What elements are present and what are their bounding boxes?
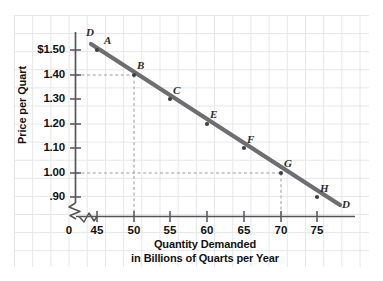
x-tick-label-55: 55 [158, 224, 182, 236]
point-label-F: F [247, 133, 254, 145]
x-tick-label-60: 60 [195, 224, 219, 236]
y-axis-title: Price per Quart [12, 60, 30, 150]
data-point-G [279, 171, 283, 175]
point-label-G: G [284, 157, 292, 169]
point-label-C: C [173, 84, 180, 96]
data-point-B [132, 73, 136, 77]
point-label-B: B [137, 59, 144, 71]
demand-curve-figure: $1.50 1.40 1.30 1.20 1.10 1.00 .90 0 45 … [0, 0, 383, 281]
x-tick-label-75: 75 [305, 224, 329, 236]
data-point-C [168, 97, 172, 101]
x-tick-label-50: 50 [122, 224, 146, 236]
x-axis-title-line2: in Billions of Quarts per Year [60, 252, 350, 266]
point-label-A: A [104, 34, 111, 46]
x-axis-title-line1: Quantity Demanded [60, 238, 350, 252]
x-tick-label-70: 70 [269, 224, 293, 236]
data-point-F [242, 146, 246, 150]
x-tick-label-0: 0 [57, 224, 81, 236]
x-axis-break-zigzag [79, 213, 97, 222]
point-label-E: E [210, 108, 217, 120]
x-tick-label-65: 65 [232, 224, 256, 236]
demand-curve-line [91, 44, 340, 205]
y-tick-label-150: $1.50 [16, 43, 65, 55]
data-point-E [205, 122, 209, 126]
x-axis-title: Quantity Demanded in Billions of Quarts … [60, 238, 350, 265]
data-point-A [95, 48, 99, 52]
point-label-H: H [320, 182, 329, 194]
curve-label-D-bottom: D [342, 198, 350, 210]
y-axis-title-text: Price per Quart [16, 66, 28, 144]
data-point-H [315, 195, 319, 199]
y-tick-label-090: .90 [16, 190, 65, 202]
curve-label-D-top: D [86, 26, 94, 38]
y-tick-label-100: 1.00 [16, 166, 65, 178]
x-tick-label-45: 45 [85, 224, 109, 236]
